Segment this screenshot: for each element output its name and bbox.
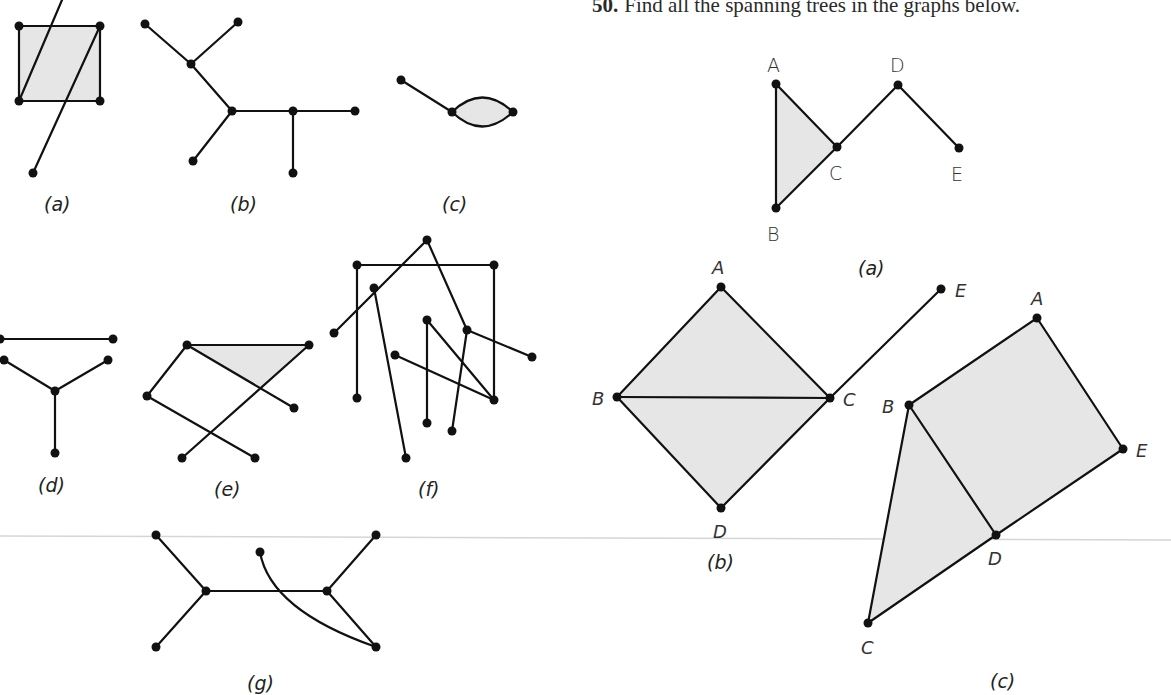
vertex-label-C: C: [843, 389, 856, 410]
vertex-label-E: E: [951, 163, 963, 185]
vertex-label-D: D: [890, 54, 905, 76]
vertex-label-B: B: [882, 396, 894, 417]
vertex-label-B: B: [592, 388, 604, 409]
caption-right-b: (b): [707, 551, 734, 573]
caption-g: (g): [247, 672, 274, 694]
vertex-label-E: E: [955, 280, 967, 301]
caption-right-c: (c): [990, 670, 1015, 692]
vertex-label-A: A: [767, 54, 780, 76]
vertex-label-C: C: [861, 637, 874, 658]
caption-b: (b): [230, 193, 257, 215]
vertex-label-B: B: [767, 223, 779, 245]
left-graph-c: (c): [397, 76, 518, 216]
vertex-label-C: C: [829, 162, 842, 184]
caption-c: (c): [442, 193, 467, 215]
shaded-face: [19, 26, 100, 101]
vertex-label-D: D: [988, 548, 1002, 569]
left-graph-a: (a): [15, 0, 105, 215]
left-graph-f: (f): [330, 236, 537, 501]
left-graph-b: (b): [141, 18, 360, 216]
left-graph-e: (e): [143, 341, 314, 501]
caption-d: (d): [38, 474, 65, 496]
right-graph-c: A B C D E (c): [861, 288, 1148, 692]
caption-f: (f): [418, 478, 440, 500]
caption-e: (e): [214, 478, 241, 500]
caption-a: (a): [44, 193, 70, 215]
vertex-label-E: E: [1136, 440, 1148, 461]
left-graph-d: (d): [0, 335, 118, 497]
vertex-label-A: A: [711, 257, 724, 278]
vertex-label-D: D: [713, 521, 727, 542]
caption-right-a: (a): [858, 257, 884, 279]
figure-canvas: (a) (b) (c) (d): [0, 0, 1171, 695]
left-graph-g: (g): [152, 531, 381, 695]
right-graph-a: A B C D E (a): [767, 54, 964, 279]
vertex-label-A: A: [1030, 288, 1043, 309]
